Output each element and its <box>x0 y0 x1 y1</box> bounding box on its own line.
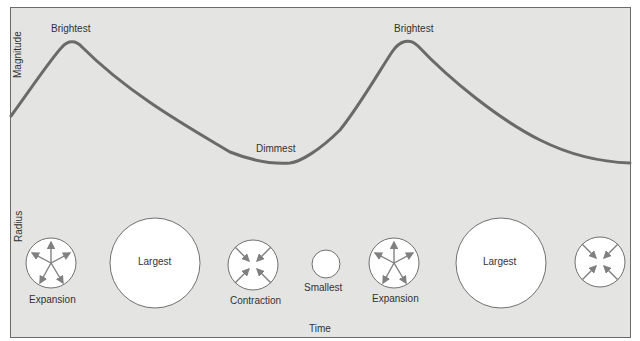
brightest-label-1: Brightest <box>51 23 90 34</box>
circle-expansion-1 <box>26 238 76 288</box>
magnitude-curve <box>11 41 630 163</box>
circle-contraction-1 <box>228 240 278 290</box>
brightest-label-2: Brightest <box>394 23 433 34</box>
circle-expansion-2 <box>369 238 419 288</box>
circle-label-largest-1: Largest <box>138 256 171 267</box>
dimmest-label: Dimmest <box>256 143 295 154</box>
magnitude-axis-label: Magnitude <box>12 31 23 78</box>
radius-axis-label: Radius <box>13 211 24 242</box>
circle-label-contraction-1: Contraction <box>230 295 281 306</box>
circle-label-largest-2: Largest <box>483 256 516 267</box>
circle-label-expansion-1: Expansion <box>29 294 76 305</box>
time-axis-label: Time <box>309 323 331 334</box>
circle-contraction-2 <box>575 237 625 287</box>
circle-label-smallest: Smallest <box>304 282 342 293</box>
circle-label-expansion-2: Expansion <box>372 293 419 304</box>
circle-smallest <box>312 250 340 278</box>
